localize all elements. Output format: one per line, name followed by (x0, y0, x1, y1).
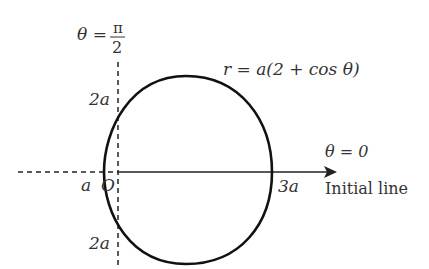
left-intercept-label: a (81, 175, 91, 195)
equation-label: r = a(2 + cos θ) (223, 59, 360, 79)
right-intercept-label: 3a (278, 176, 299, 196)
initial-line-angle-label: θ = 0 (325, 142, 368, 161)
limacon-curve (104, 76, 272, 264)
bottom-intercept-label: 2a (88, 233, 110, 253)
limacon-diagram: θ = π 2 r = a(2 + cos θ) 2a 2a a O 3a θ … (0, 0, 429, 269)
initial-line-label: Initial line (325, 179, 408, 198)
vertical-axis-lhs: θ = (77, 24, 107, 44)
top-intercept-label: 2a (88, 89, 110, 109)
vertical-axis-num: π (113, 19, 123, 37)
pole-label: O (101, 175, 115, 195)
vertical-axis-den: 2 (112, 38, 122, 57)
